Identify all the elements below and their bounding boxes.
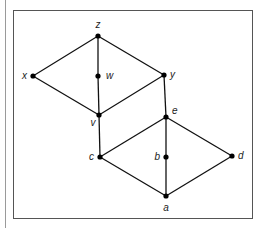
edge-z-x (33, 36, 98, 76)
node-label-c: c (89, 151, 94, 162)
edge-x-v (33, 76, 99, 115)
edge-c-a (100, 157, 166, 196)
node-label-d: d (238, 150, 244, 161)
graph-edges (33, 36, 232, 196)
node-label-x: x (21, 70, 28, 81)
node-label-w: w (106, 70, 114, 81)
node-b (163, 154, 168, 159)
edge-y-e (164, 75, 166, 117)
graph-labels: zxwyvecbda (21, 19, 244, 213)
node-a (163, 193, 168, 198)
node-y (161, 72, 166, 77)
node-x (30, 73, 35, 78)
edge-d-a (166, 156, 232, 196)
edge-y-v (99, 75, 164, 115)
node-label-y: y (169, 69, 176, 80)
edge-w-v (98, 76, 99, 115)
node-d (229, 153, 234, 158)
node-label-b: b (154, 151, 160, 162)
lattice-graph: zxwyvecbda (0, 0, 264, 228)
node-e (163, 114, 168, 119)
node-c (97, 154, 102, 159)
edge-e-d (166, 117, 232, 156)
node-label-v: v (91, 117, 97, 128)
node-z (95, 33, 100, 38)
node-w (95, 73, 100, 78)
node-label-z: z (95, 19, 101, 30)
edge-v-c (99, 115, 100, 157)
node-label-a: a (163, 202, 169, 213)
node-label-e: e (172, 105, 178, 116)
node-v (96, 112, 101, 117)
